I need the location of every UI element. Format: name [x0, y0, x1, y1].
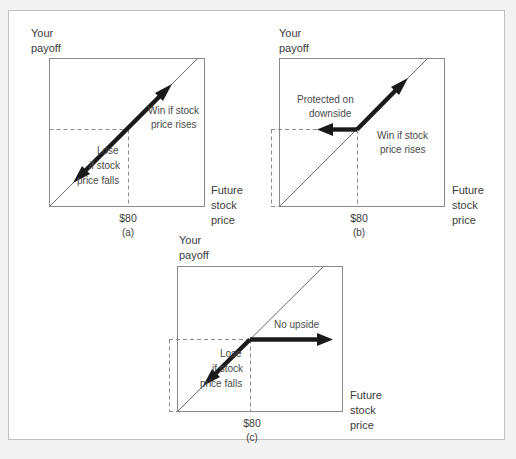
panel-c: Your payoff No upside Lose if stock — [137, 226, 397, 441]
panel-a-lose-label-line3: price falls — [77, 175, 119, 186]
panel-c-caption: (c) — [246, 432, 258, 443]
panel-b-x-axis-label-line2: stock — [452, 199, 478, 211]
panel-c-x-axis-label-line1: Future — [350, 389, 382, 401]
panel-c-x-axis-label-line2: stock — [350, 404, 376, 416]
panel-a-x-axis-label-line3: price — [211, 214, 235, 226]
figure-outer-frame: Your payoff Win if stock price rises Los… — [8, 10, 505, 440]
panel-c-y-axis-label-line2: payoff — [179, 249, 210, 261]
panel-b-left-arrowhead — [317, 123, 333, 136]
panel-b-y-axis-label-line2: payoff — [279, 42, 310, 54]
panel-b: Your payoff Protected on downside Wi — [239, 11, 505, 241]
panel-b-protected-label-line2: downside — [309, 108, 352, 119]
panel-a-plot-box — [50, 59, 205, 207]
panel-b-strike-tick: $80 — [350, 212, 368, 224]
panel-b-x-axis-label-line1: Future — [452, 184, 484, 196]
panel-b-win-label-line2: price rises — [380, 144, 426, 155]
panel-c-strike-tick: $80 — [243, 417, 261, 429]
panel-c-lose-label-line3: price falls — [200, 378, 242, 389]
panel-b-win-label-line1: Win if stock — [377, 130, 429, 141]
panel-a-win-label-line1: Win if stock — [148, 105, 200, 116]
panel-b-y-axis-label-line1: Your — [279, 27, 302, 39]
panel-a-lose-label-line2: if stock — [89, 160, 121, 171]
panel-a: Your payoff Win if stock price rises Los… — [9, 11, 239, 241]
panel-a-win-label-line2: price rises — [151, 119, 197, 130]
panel-c-y-axis-label-line1: Your — [179, 234, 202, 246]
panel-a-strike-tick: $80 — [119, 212, 137, 224]
panel-a-y-axis-label-line2: payoff — [31, 42, 62, 54]
panel-a-caption: (a) — [122, 227, 134, 238]
panel-b-upside-segment — [357, 89, 397, 130]
panel-c-right-arrowhead — [317, 333, 333, 346]
panel-a-lose-label-line1: Lose — [97, 145, 119, 156]
panel-c-lose-label-line1: Lose — [220, 348, 242, 359]
panel-b-x-axis-label-line3: price — [452, 214, 476, 226]
panel-c-lose-label-line2: if stock — [212, 363, 244, 374]
panel-a-y-axis-label-line1: Your — [31, 27, 54, 39]
panel-c-x-axis-label-line3: price — [350, 419, 374, 431]
figure-root: Your payoff Win if stock price rises Los… — [0, 0, 516, 459]
panel-a-x-axis-label-line2: stock — [211, 199, 237, 211]
panel-b-protected-label-line1: Protected on — [297, 94, 354, 105]
panel-c-no-upside-label: No upside — [274, 319, 319, 330]
